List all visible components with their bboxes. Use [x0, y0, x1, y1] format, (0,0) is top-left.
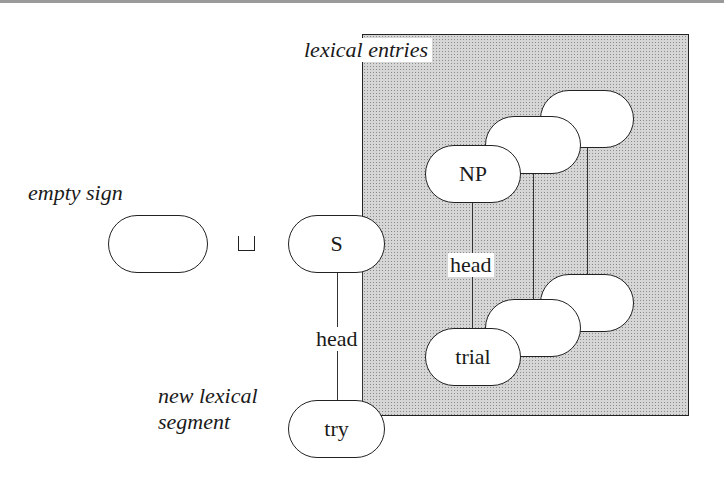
edge-mid-stack	[533, 173, 534, 301]
top-border-line	[0, 0, 724, 3]
node-label: NP	[459, 161, 487, 187]
s-node: S	[288, 215, 385, 273]
new-lexical-segment-label-1: new lexical	[158, 384, 258, 408]
empty-sign-node	[108, 215, 208, 273]
empty-sign-label: empty sign	[28, 181, 123, 205]
edge-s-try-right	[362, 272, 363, 401]
edge-back-stack	[587, 148, 588, 276]
edge-label-head-np: head	[448, 253, 494, 277]
try-node: try	[288, 400, 385, 458]
new-lexical-segment-label-2: segment	[158, 410, 230, 434]
lexical-entries-box	[362, 34, 689, 416]
np-node: NP	[425, 145, 521, 203]
lexical-entries-label: lexical entries	[300, 38, 432, 62]
trial-node: trial	[425, 328, 521, 386]
edge-label-head-s: head	[314, 327, 360, 351]
join-operator-icon	[238, 236, 255, 251]
node-label: trial	[455, 344, 490, 370]
node-label: try	[324, 416, 348, 442]
node-label: S	[330, 231, 342, 257]
